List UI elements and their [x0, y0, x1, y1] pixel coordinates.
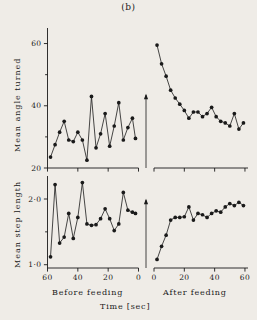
data-point: [134, 212, 138, 216]
data-point: [214, 209, 218, 213]
data-point: [219, 210, 223, 214]
data-point: [201, 115, 205, 119]
data-point: [71, 140, 75, 144]
series-angle-before-feeding: [49, 95, 138, 162]
step-y-ticklabel: 1·0: [28, 260, 41, 269]
data-point: [242, 121, 246, 125]
data-point: [210, 212, 214, 216]
series-step-after-feeding: [155, 200, 245, 261]
data-point: [117, 222, 121, 226]
data-point: [187, 116, 191, 120]
data-point: [85, 222, 89, 226]
data-point: [182, 215, 186, 219]
step-before-x-ticklabel: 40: [73, 273, 83, 282]
event-marker-layer: [144, 94, 148, 268]
data-point: [99, 132, 103, 136]
data-point: [237, 127, 241, 131]
data-point: [173, 96, 177, 100]
data-point: [90, 223, 94, 227]
data-point: [103, 112, 107, 116]
data-point: [201, 213, 205, 217]
series-line-angle-before-feeding: [51, 96, 136, 160]
data-point: [178, 216, 182, 220]
data-point: [94, 146, 98, 150]
data-point: [214, 115, 218, 119]
data-point: [53, 143, 57, 147]
step-after-x-ticklabel: 20: [179, 273, 189, 282]
data-point: [223, 121, 227, 125]
data-point: [53, 183, 57, 187]
data-point: [155, 43, 159, 47]
data-point: [187, 205, 191, 209]
data-point: [192, 218, 196, 222]
data-point: [233, 204, 237, 208]
data-point: [169, 88, 173, 92]
step-before-x-ticklabel: 20: [103, 273, 113, 282]
data-point: [219, 119, 223, 123]
data-point: [103, 207, 107, 211]
data-point: [178, 102, 182, 106]
step-y-ticklabel: 2·0: [28, 195, 41, 204]
data-point: [164, 233, 168, 237]
step-after-x-ticklabel: 40: [209, 273, 219, 282]
data-point: [49, 255, 53, 259]
data-point: [85, 158, 89, 162]
feeding-arrow-head: [144, 199, 148, 204]
angle-y-ticklabel: 60: [31, 39, 41, 48]
data-point: [192, 110, 196, 114]
series-step-before-feeding: [49, 181, 138, 259]
step-after-x-ticklabel: 0: [151, 273, 156, 282]
series-line-angle-after-feeding: [157, 45, 243, 129]
figure-canvas: 6040202·01·060402000204060: [0, 0, 257, 320]
data-point: [205, 112, 209, 116]
data-point: [112, 124, 116, 128]
data-point: [205, 216, 209, 220]
data-point: [242, 204, 246, 208]
data-point: [160, 62, 164, 66]
data-point: [121, 191, 125, 195]
data-point: [228, 124, 232, 128]
data-point: [126, 126, 130, 130]
angle-y-ticklabel: 20: [31, 164, 41, 173]
step-before-x-ticklabel: 60: [42, 273, 52, 282]
series-layer: [49, 43, 246, 261]
data-point: [237, 200, 241, 204]
data-point: [131, 116, 135, 120]
tick-label-layer: 6040202·01·060402000204060: [28, 39, 250, 282]
data-point: [76, 130, 80, 134]
step-before-x-ticklabel: 0: [136, 273, 141, 282]
data-point: [182, 109, 186, 113]
step-after-x-ticklabel: 60: [240, 273, 250, 282]
data-point: [108, 217, 112, 221]
data-point: [196, 110, 200, 114]
data-point: [164, 74, 168, 78]
data-point: [58, 241, 62, 245]
data-point: [94, 223, 98, 227]
series-angle-after-feeding: [155, 43, 245, 131]
data-point: [67, 138, 71, 142]
data-point: [196, 212, 200, 216]
feeding-arrow-head: [144, 94, 148, 99]
data-point: [228, 202, 232, 206]
data-point: [223, 205, 227, 209]
series-line-step-after-feeding: [157, 202, 243, 259]
data-point: [49, 155, 53, 159]
data-point: [99, 217, 103, 221]
data-point: [173, 216, 177, 220]
data-point: [71, 237, 75, 241]
data-point: [233, 112, 237, 116]
data-point: [62, 235, 66, 239]
data-point: [121, 138, 125, 142]
data-point: [210, 105, 214, 109]
data-point: [134, 137, 138, 141]
data-point: [160, 244, 164, 248]
angle-y-ticklabel: 40: [31, 101, 41, 110]
data-point: [81, 181, 85, 185]
data-point: [62, 119, 66, 123]
data-point: [81, 138, 85, 142]
data-point: [126, 208, 130, 212]
data-point: [108, 144, 112, 148]
data-point: [112, 229, 116, 233]
data-point: [76, 216, 80, 220]
data-point: [90, 95, 94, 99]
